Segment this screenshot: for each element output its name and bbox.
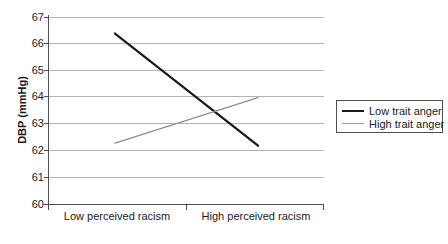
chart-legend: Low trait anger High trait anger	[336, 100, 443, 133]
series-line-high-trait-anger	[115, 98, 258, 143]
legend-label: High trait anger	[369, 118, 444, 130]
y-axis-ticks	[44, 18, 48, 205]
x-tick-label-high-perceived-racism: High perceived racism	[202, 210, 311, 223]
x-tick-label-low-perceived-racism: Low perceived racism	[64, 210, 170, 223]
legend-entry-high-trait-anger: High trait anger	[337, 117, 442, 130]
legend-entry-low-trait-anger: Low trait anger	[337, 104, 442, 117]
gridlines	[48, 18, 324, 178]
legend-label: Low trait anger	[369, 105, 442, 117]
legend-swatch-icon	[342, 123, 364, 124]
chart-figure: DBP (mmHg) 67 66 65 64 63 62 61 60	[0, 0, 448, 244]
series-line-low-trait-anger	[115, 34, 258, 146]
legend-swatch-icon	[342, 110, 364, 112]
